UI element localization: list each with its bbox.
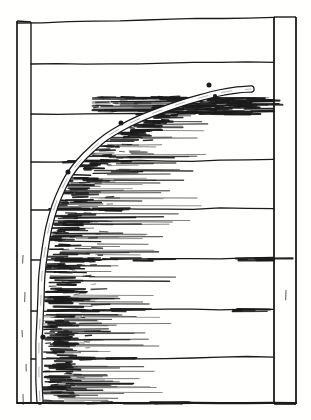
bud-dot — [130, 129, 134, 133]
hatch-shading — [42, 96, 292, 403]
bud-dot — [213, 94, 217, 98]
bud-dot — [66, 170, 71, 175]
engraving-page — [0, 0, 311, 420]
bud-dot — [207, 83, 212, 88]
bud-dot — [119, 121, 124, 126]
bud-dot — [40, 334, 45, 339]
illustration-figure — [0, 0, 311, 420]
trained-branch-engraving — [0, 0, 311, 420]
